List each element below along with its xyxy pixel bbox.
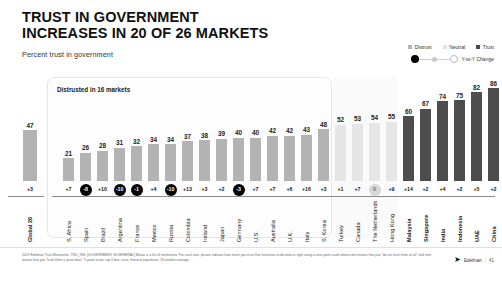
bar: [233, 138, 244, 181]
change-badge: -1: [131, 184, 143, 196]
category-label: Colombia: [185, 202, 191, 242]
change-badge: -8: [80, 184, 92, 196]
bar: [420, 109, 431, 181]
bar-column: 21+7S. Africa: [60, 74, 77, 242]
bar: [471, 92, 482, 181]
legend-label-distrust: Distrust: [415, 44, 432, 50]
bar-value-label: 40: [235, 129, 242, 136]
bar-value-label: 37: [184, 133, 191, 140]
bar-column: 32-1France: [128, 74, 145, 242]
bar: [369, 123, 380, 181]
change-positive-dot-icon: [450, 55, 458, 63]
bar-value-label: 34: [167, 136, 174, 143]
bar: [23, 130, 37, 181]
category-label: U.S.: [253, 202, 259, 242]
bar-value-label: 38: [201, 132, 208, 139]
footer-divider: [0, 247, 502, 248]
change-negative-dot-icon: [411, 55, 419, 63]
brand-name: Edelman: [464, 258, 482, 263]
legend-label-neutral: Neutral: [449, 44, 465, 50]
bar-value-label: 60: [405, 108, 412, 115]
change-badge: +4: [148, 184, 160, 196]
bar-value-label: 53: [354, 115, 361, 122]
change-badge: +3: [24, 184, 36, 196]
legend-rule-right: [437, 59, 450, 60]
legend-rule-left: [419, 59, 432, 60]
bar-value-label: 32: [133, 138, 140, 145]
bar: [284, 136, 295, 181]
brand-footer: ➤ Edelman | 41: [454, 256, 494, 264]
bar: [250, 138, 261, 181]
change-badge: +7: [267, 184, 279, 196]
bar-column: 82+5UAE: [468, 74, 485, 242]
category-label: Spain: [83, 202, 89, 242]
bar-column: 52+1Turkey: [332, 74, 349, 242]
change-badge: +2: [454, 184, 466, 196]
bar-column: 67+2Singapore: [417, 74, 434, 242]
bar-value-label: 47: [26, 122, 33, 129]
bar-value-label: 43: [303, 126, 310, 133]
category-label: S. Korea: [321, 202, 327, 242]
change-badge: +1: [335, 184, 347, 196]
page-subtitle: Percent trust in government: [22, 50, 113, 59]
page-number: 41: [489, 258, 494, 263]
bar-value-label: 40: [252, 129, 259, 136]
change-badge: +13: [182, 184, 194, 196]
bar: [165, 144, 176, 181]
bar-value-label: 42: [286, 127, 293, 134]
change-badge: +7: [250, 184, 262, 196]
footnote-text: 2019 Edelman Trust Barometer. TRU_INS. […: [22, 253, 432, 262]
bar-column: 39+2Japan: [213, 74, 230, 242]
bar: [216, 139, 227, 181]
bar-column: 53+7Canada: [349, 74, 366, 242]
change-badge: +6: [284, 184, 296, 196]
legend-series: Distrust Neutral Trust: [408, 44, 494, 50]
global-baseline-axis: [8, 196, 44, 197]
change-badge: +2: [216, 184, 228, 196]
bar: [301, 135, 312, 181]
category-label: UAE: [474, 202, 480, 242]
change-badge: +5: [471, 184, 483, 196]
change-badge: +2: [488, 184, 500, 196]
bar: [386, 122, 397, 181]
bar-column: 31-10Argentina: [111, 74, 128, 242]
bar-column: 48+3S. Korea: [315, 74, 332, 242]
bar-value-label: 28: [99, 142, 106, 149]
brand-separator: |: [485, 258, 486, 263]
bar-column: 43+16Italy: [298, 74, 315, 242]
page-title-line-2: INCREASES IN 20 OF 26 MARKETS: [22, 26, 268, 42]
category-label: Brazil: [100, 202, 106, 242]
change-badge: +4: [437, 184, 449, 196]
category-label: Turkey: [338, 202, 344, 242]
bar-column: 37+13Colombia: [179, 74, 196, 242]
bar-value-label: 31: [116, 139, 123, 146]
category-label: S. Africa: [66, 202, 72, 242]
bar: [114, 148, 125, 182]
bar-column: 38+3Ireland: [196, 74, 213, 242]
category-label: Indonesia: [457, 202, 463, 242]
bar-value-label: 74: [439, 93, 446, 100]
bar-column: 60+14Malaysia: [400, 74, 417, 242]
bar-value-label: 34: [150, 136, 157, 143]
bar-value-label: 26: [82, 144, 89, 151]
change-badge: +2: [420, 184, 432, 196]
page-title: TRUST IN GOVERNMENT INCREASES IN 20 OF 2…: [22, 10, 268, 41]
change-badge: +10: [97, 184, 109, 196]
change-badge: +9: [386, 184, 398, 196]
change-badge: -10: [114, 184, 126, 196]
bar-value-label: 75: [456, 92, 463, 99]
change-badge: -10: [165, 184, 177, 196]
category-label: Malaysia: [406, 202, 412, 242]
bar-value-label: 39: [218, 130, 225, 137]
change-badge: -3: [233, 184, 245, 196]
category-label: Germany: [236, 202, 242, 242]
bar-value-label: 52: [337, 116, 344, 123]
trust-in-government-bar-chart: Distrusted in 16 markets 47+3Global 2621…: [0, 74, 502, 242]
bar: [63, 158, 74, 181]
bar-column: 34+4Mexico: [145, 74, 162, 242]
bar: [131, 146, 142, 181]
category-label: Japan: [219, 202, 225, 242]
bar-value-label: 67: [422, 100, 429, 107]
bar-value-label: 54: [371, 114, 378, 121]
change-badge: +7: [352, 184, 364, 196]
